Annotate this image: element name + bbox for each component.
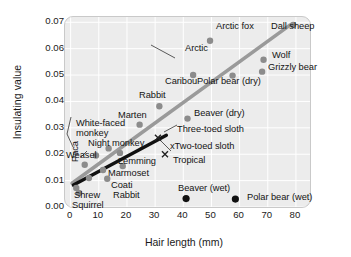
data-point [182,195,189,202]
data-point-x [162,151,168,157]
x-tick-2: 20 [113,210,139,220]
data-point [100,167,106,173]
data-point [86,175,92,181]
point-label-23: Beaver (wet) [178,183,230,193]
data-point [184,115,190,121]
y-tick-3: 0.03 [24,122,64,132]
y-tick-4: 0.04 [24,95,64,105]
y-tick-5: 0.05 [24,69,64,79]
point-label-19: Coati [111,180,132,190]
x-tick-5: 50 [197,210,223,220]
x-tick-3: 30 [141,210,167,220]
x-tick-4: 40 [169,210,195,220]
point-label-18: Marmoset [108,168,149,178]
x-tick-8: 80 [282,210,308,220]
point-label-22: Squirrel [72,200,104,210]
x-tick-1: 10 [85,210,111,220]
point-label-17: Paca [70,141,80,162]
callout-leader-line [151,45,175,58]
point-label-3: Wolf [272,50,290,60]
point-label-8: Beaver (dry) [194,108,245,118]
data-point [260,57,266,63]
point-label-20: Shrew [74,190,100,200]
y-tick-2: 0.02 [24,148,64,158]
point-label-0: Arctic fox [216,21,254,31]
point-label-4: Grizzly bear [268,62,317,72]
point-label-24: Polar bear (wet) [247,192,312,202]
y-tick-7: 0.07 [24,16,64,26]
point-label-12: Night monkey [88,138,144,148]
point-label-15: Lemming [118,156,156,166]
x-tick-7: 70 [254,210,280,220]
callout-leader-line [164,125,177,132]
scatter-chart-figure: Insulating value Hair length (mm) 0.000.… [0,0,351,257]
callout-leader-line [67,117,71,134]
y-tick-6: 0.06 [24,43,64,53]
point-label-5: Caribou [165,76,197,86]
point-label-6: Polar bear (dry) [197,76,261,86]
point-label-10: Three-toed sloth [177,124,244,134]
point-label-13: xTwo-toed sloth [170,141,234,151]
point-label-1: Dall sheep [271,21,314,31]
point-label-11: White-faced monkey [76,118,138,138]
point-label-16: Tropical [173,155,205,165]
point-label-2: Arctic [185,43,208,53]
data-point [82,162,88,168]
data-point [232,195,239,202]
data-point [259,68,265,74]
data-point [156,103,162,109]
y-axis-title: Insulating value [11,27,23,177]
x-axis-title: Hair length (mm) [64,236,304,248]
x-tick-6: 60 [226,210,252,220]
x-tick-0: 0 [57,210,83,220]
point-label-21: Rabbit [113,190,140,200]
y-tick-1: 0.01 [24,175,64,185]
point-label-7: Rabbit [139,90,166,100]
